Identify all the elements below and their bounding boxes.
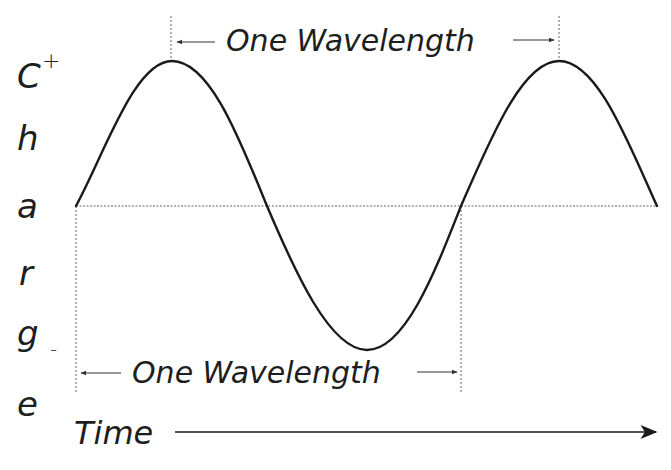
y-label-plus: + — [42, 48, 60, 73]
top-wavelength-label: One Wavelength — [226, 23, 475, 58]
y-label-letter-g: g — [17, 313, 39, 353]
y-label-letter-c: C — [17, 56, 41, 96]
y-label-letter-h: h — [17, 118, 39, 158]
y-label-letter-r: r — [19, 253, 35, 293]
bottom-wavelength-label: One Wavelength — [132, 355, 381, 390]
y-label-letter-a: a — [17, 186, 38, 226]
x-axis-label-time: Time — [74, 414, 153, 452]
wavelength-diagram: One Wavelength One Wavelength C + h a r … — [0, 0, 671, 470]
y-label-minus: - — [50, 337, 57, 361]
y-label-letter-e: e — [17, 384, 38, 424]
